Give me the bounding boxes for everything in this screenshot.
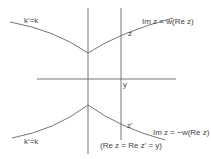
label-y: y xyxy=(123,80,127,89)
label-lower-curve: Im z = −w(Re z) xyxy=(153,128,210,137)
label-upper-left: k'=k xyxy=(24,16,39,25)
label-lower-left: k'=k xyxy=(24,137,39,146)
label-upper-curve: Im z = w(Re z) xyxy=(142,17,194,26)
label-z: z xyxy=(128,29,132,38)
diagram-canvas: k'=k k'=k z z' y Im z = w(Re z) Im z = −… xyxy=(0,0,211,159)
label-vertical-line: (Re z = Re z' = y) xyxy=(100,141,162,150)
label-z-prime: z' xyxy=(127,121,133,130)
lower-left-curve xyxy=(12,105,88,138)
upper-left-curve xyxy=(10,22,88,53)
